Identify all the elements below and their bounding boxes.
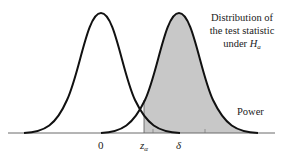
z-alpha-label: zα	[140, 140, 148, 153]
power-diagram: Distribution of the test statistic under…	[0, 0, 283, 155]
zero-label: 0	[98, 140, 104, 151]
power-label: Power	[237, 107, 264, 118]
delta-label: δ	[176, 140, 181, 151]
annotation-line-2: the test statistic	[202, 24, 282, 37]
annotation-line-1: Distribution of	[202, 11, 282, 24]
alternative-distribution-annotation: Distribution of the test statistic under…	[202, 11, 282, 54]
annotation-line-3: under Ha	[202, 37, 282, 54]
